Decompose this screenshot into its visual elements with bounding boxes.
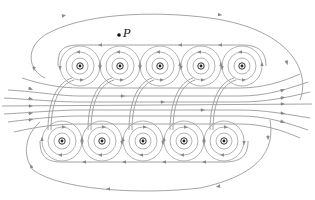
outer-return-loop-bottom — [26, 120, 271, 191]
point-p-label: P — [123, 27, 130, 40]
interior-field-lines — [2, 74, 312, 138]
conductor-bottom-2 — [82, 121, 122, 161]
conductor-bottom-3 — [123, 121, 163, 161]
outer-return-loop-top — [31, 14, 303, 100]
bottom-conductor-row — [42, 121, 244, 161]
conductor-top-1 — [60, 46, 100, 86]
conductor-bottom-5 — [204, 121, 244, 161]
solenoid-field-diagram — [0, 0, 315, 200]
point-p-dot — [117, 33, 121, 37]
top-conductor-row — [60, 46, 262, 86]
conductor-top-4 — [181, 46, 221, 86]
conductor-bottom-4 — [164, 121, 204, 161]
conductor-top-3 — [140, 46, 180, 86]
conductor-top-5 — [222, 46, 262, 86]
conductor-bottom-1 — [42, 121, 82, 161]
conductor-top-2 — [100, 46, 140, 86]
